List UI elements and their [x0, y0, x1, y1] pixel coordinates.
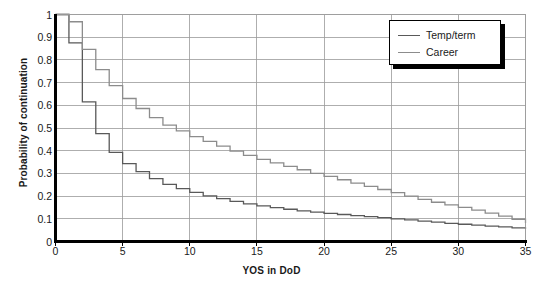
legend-line-icon-career [398, 52, 420, 53]
chart-legend: Temp/term Career [389, 20, 501, 65]
x-axis-title: YOS in DoD [0, 265, 543, 276]
x-axis-tick-label: 0 [36, 245, 76, 257]
x-axis-tick-labels: 05101520253035 [0, 245, 543, 263]
legend-label-temp-term: Temp/term [426, 29, 476, 41]
chart-figure: Probability of continuation 00.10.20.30.… [0, 0, 543, 286]
legend-item-career: Career [398, 44, 500, 60]
x-axis-tick-label: 20 [304, 245, 344, 257]
x-axis-tick-label: 5 [103, 245, 143, 257]
legend-item-temp-term: Temp/term [398, 27, 500, 43]
x-axis-tick-label: 30 [438, 245, 478, 257]
legend-line-icon-temp-term [398, 35, 420, 36]
x-axis-tick-label: 15 [237, 245, 277, 257]
legend-label-career: Career [426, 46, 458, 58]
x-axis-tick-label: 35 [506, 245, 543, 257]
x-axis-tick-label: 10 [170, 245, 210, 257]
x-axis-tick-label: 25 [371, 245, 411, 257]
